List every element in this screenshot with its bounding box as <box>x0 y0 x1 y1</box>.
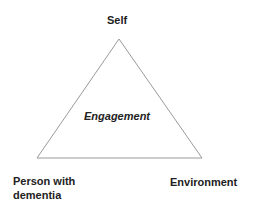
vertex-label-person-line1: Person with <box>13 175 75 188</box>
vertex-label-self: Self <box>107 14 127 27</box>
vertex-label-person-line2: dementia <box>13 189 61 202</box>
center-label-engagement: Engagement <box>84 110 150 123</box>
vertex-label-environment: Environment <box>170 176 237 189</box>
